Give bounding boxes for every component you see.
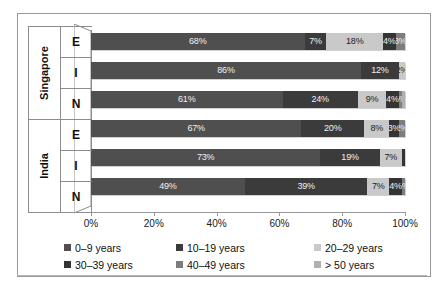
category-label-singapore-i: I xyxy=(60,57,92,88)
legend-swatch-icon xyxy=(64,261,71,268)
bar-segment-label: 39% xyxy=(297,182,314,191)
bar-segment[interactable]: 18% xyxy=(326,33,383,50)
bar-segment-label: 18% xyxy=(346,37,363,46)
value-axis-tick xyxy=(405,212,406,216)
group-label-text: India xyxy=(38,153,50,179)
value-axis-line xyxy=(84,212,406,213)
legend-label: 20–29 years xyxy=(325,242,383,254)
bar-row[interactable]: 49%39%7%4%1% xyxy=(91,178,405,195)
bar-segment-label: 2% xyxy=(399,124,405,133)
bar-segment[interactable]: 68% xyxy=(91,33,305,50)
legend-item[interactable]: 20–29 years xyxy=(304,239,424,256)
group-label-india: India xyxy=(28,119,60,212)
category-label-india-n: N xyxy=(60,181,92,212)
bar-segment-label: 8% xyxy=(370,124,383,133)
bar-segment[interactable]: 3% xyxy=(396,33,405,50)
legend: 0–9 years10–19 years20–29 years30–39 yea… xyxy=(24,239,424,275)
bar-segment[interactable]: 9% xyxy=(358,91,386,108)
bar-segment[interactable]: 2% xyxy=(399,120,405,137)
bar-segment[interactable]: 49% xyxy=(91,178,245,195)
bar-segment-label: 49% xyxy=(159,182,176,191)
legend-label: > 50 years xyxy=(325,259,374,271)
bar-segment[interactable]: 67% xyxy=(91,120,301,137)
category-label-india-i: I xyxy=(60,150,92,181)
value-axis-tick xyxy=(154,212,155,216)
bar-segment[interactable]: 7% xyxy=(380,149,402,166)
bar-segment-label: 4% xyxy=(383,37,396,46)
bar-segment[interactable]: 86% xyxy=(91,62,361,79)
legend-item[interactable]: > 50 years xyxy=(304,256,424,273)
bar-segment[interactable] xyxy=(402,91,405,108)
legend-divider xyxy=(17,275,427,276)
category-axis-labels: EINEINSingaporeIndia xyxy=(28,26,92,212)
bar-segment[interactable]: 3% xyxy=(389,120,398,137)
legend-row: 30–39 years40–49 years> 50 years xyxy=(24,256,424,273)
value-axis-tick xyxy=(279,212,280,216)
bar-segment-label: 7% xyxy=(309,37,322,46)
bar-segment-label: 19% xyxy=(341,153,358,162)
category-row-divider xyxy=(60,181,92,182)
bar-segment[interactable]: 4% xyxy=(389,178,402,195)
legend-swatch-icon xyxy=(176,244,183,251)
bar-row[interactable]: 61%24%9%4%1% xyxy=(91,91,405,108)
bar-segment-label: 4% xyxy=(386,95,399,104)
legend-item[interactable]: 10–19 years xyxy=(164,239,304,256)
bar-segment[interactable] xyxy=(402,149,405,166)
bar-segment[interactable]: 61% xyxy=(91,91,283,108)
bar-segment[interactable]: 4% xyxy=(383,33,396,50)
category-row-divider xyxy=(60,88,92,89)
bar-segment-label: 61% xyxy=(178,95,195,104)
legend-swatch-icon xyxy=(314,261,321,268)
legend-label: 10–19 years xyxy=(187,242,245,254)
legend-label: 0–9 years xyxy=(75,242,121,254)
chart-root: 0%20%40%60%80%100% 68%7%18%4%3%86%12%2%6… xyxy=(0,0,448,290)
bar-row[interactable]: 67%20%8%3%2% xyxy=(91,120,405,137)
category-label-india-e: E xyxy=(60,119,92,150)
bar-segment[interactable]: 7% xyxy=(367,178,389,195)
category-row-divider xyxy=(60,57,92,58)
legend-label: 40–49 years xyxy=(187,259,245,271)
value-axis-tick-label: 100% xyxy=(383,218,427,229)
legend-label: 30–39 years xyxy=(75,259,133,271)
bar-segment[interactable]: 7% xyxy=(305,33,327,50)
bar-segment-label: 3% xyxy=(389,124,398,133)
bar-row[interactable]: 68%7%18%4%3% xyxy=(91,33,405,50)
bar-segment-label: 2% xyxy=(399,66,405,75)
bar-segment[interactable]: 12% xyxy=(361,62,399,79)
bar-segment[interactable]: 1% xyxy=(402,178,405,195)
bar-row[interactable]: 86%12%2% xyxy=(91,62,405,79)
bar-segment[interactable]: 8% xyxy=(364,120,389,137)
bar-segment[interactable]: 20% xyxy=(301,120,364,137)
value-axis-tick-label: 60% xyxy=(257,218,301,229)
bar-row[interactable]: 73%19%7% xyxy=(91,149,405,166)
bar-segment[interactable]: 24% xyxy=(283,91,358,108)
value-axis-tick-label: 0% xyxy=(69,218,113,229)
value-axis-tick-label: 80% xyxy=(320,218,364,229)
bar-segment-label: 4% xyxy=(389,182,402,191)
bar-segment[interactable]: 19% xyxy=(320,149,380,166)
legend-item[interactable]: 40–49 years xyxy=(164,256,304,273)
bar-segment-label: 86% xyxy=(217,66,234,75)
legend-row: 0–9 years10–19 years20–29 years xyxy=(24,239,424,256)
bar-segment[interactable]: 73% xyxy=(91,149,320,166)
bar-segment-label: 20% xyxy=(324,124,341,133)
bar-segment[interactable]: 39% xyxy=(245,178,367,195)
category-row-divider xyxy=(60,150,92,151)
legend-item[interactable]: 30–39 years xyxy=(24,256,164,273)
category-table-bottom-rule xyxy=(28,212,92,213)
value-axis-tick-label: 20% xyxy=(132,218,176,229)
bar-segment[interactable]: 2% xyxy=(399,62,405,79)
legend-swatch-icon xyxy=(176,261,183,268)
bar-segment-label: 68% xyxy=(189,37,206,46)
legend-item[interactable]: 0–9 years xyxy=(24,239,164,256)
value-axis-tick-label: 40% xyxy=(195,218,239,229)
category-label-singapore-n: N xyxy=(60,88,92,119)
value-axis-tick xyxy=(217,212,218,216)
value-axis-tick xyxy=(342,212,343,216)
group-label-singapore: Singapore xyxy=(28,26,60,119)
bar-segment[interactable]: 4% xyxy=(386,91,399,108)
category-label-singapore-e: E xyxy=(60,26,92,57)
bar-segment-label: 3% xyxy=(396,37,405,46)
legend-swatch-icon xyxy=(314,244,321,251)
bar-segment-label: 12% xyxy=(371,66,388,75)
